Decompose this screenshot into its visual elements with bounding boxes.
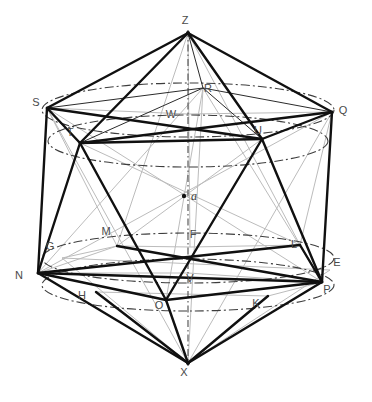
edge-U-P — [262, 139, 322, 282]
label-P: P — [323, 283, 330, 295]
label-N: N — [15, 269, 23, 281]
label-G: G — [46, 240, 55, 252]
label-V: V — [186, 272, 194, 284]
vertex-labels: Z S Q R W T U a M F G L E N V P H O K X — [15, 14, 348, 378]
label-a: a — [191, 189, 197, 203]
label-E: E — [333, 256, 340, 268]
gray-line-X-S — [47, 108, 188, 363]
gray-line-X-Q — [188, 112, 332, 363]
edge-L-P-bold — [300, 245, 322, 282]
label-Z: Z — [182, 14, 189, 26]
gray-line-G-M — [62, 246, 117, 258]
icosahedron-svg: Z S Q R W T U a M F G L E N V P H O K X — [0, 0, 372, 402]
label-X: X — [180, 366, 188, 378]
vertex-dot-a — [182, 194, 186, 198]
vertex-dot-Z — [186, 31, 190, 35]
gray-line-H-K — [96, 292, 268, 296]
label-O: O — [155, 299, 164, 311]
label-Q: Q — [339, 104, 348, 116]
label-R: R — [204, 82, 212, 94]
edge-Z-Q — [188, 33, 332, 112]
label-U: U — [254, 124, 262, 136]
label-H: H — [78, 289, 86, 301]
label-S: S — [32, 96, 39, 108]
label-L: L — [291, 238, 297, 250]
label-F: F — [190, 228, 197, 240]
edge-X-H — [96, 292, 188, 363]
vertex-dot-X — [186, 361, 190, 365]
edge-X-N — [38, 273, 188, 363]
edge-R-Q — [203, 88, 332, 112]
label-K: K — [252, 297, 260, 309]
label-M: M — [101, 225, 110, 237]
label-T: T — [67, 126, 74, 138]
label-W: W — [166, 108, 177, 120]
icosahedron-figure: Z S Q R W T U a M F G L E N V P H O K X — [0, 0, 372, 402]
